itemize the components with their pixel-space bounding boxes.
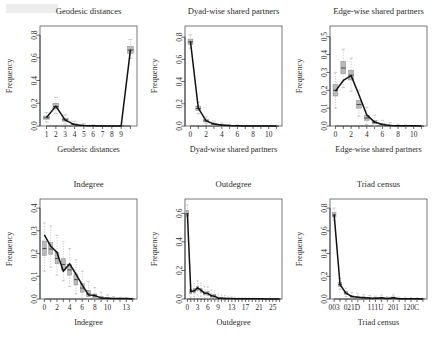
svg-text:Frequency: Frequency: [295, 231, 304, 266]
svg-text:2: 2: [204, 130, 208, 139]
svg-text:0.4: 0.4: [175, 237, 184, 247]
svg-text:6: 6: [236, 130, 240, 139]
svg-text:003: 003: [329, 303, 340, 312]
svg-text:6: 6: [381, 130, 385, 139]
svg-text:2: 2: [54, 130, 58, 139]
svg-text:0: 0: [43, 303, 47, 312]
svg-text:13: 13: [228, 303, 236, 312]
svg-text:2: 2: [55, 303, 59, 312]
svg-text:8: 8: [251, 130, 255, 139]
svg-text:120C: 120C: [403, 303, 419, 312]
svg-text:0: 0: [186, 303, 190, 312]
svg-text:0.0: 0.0: [30, 294, 39, 304]
svg-text:201: 201: [388, 303, 399, 312]
gof-panel-grid: Geodesic distances0.00.20.40.60.8Frequen…: [0, 0, 435, 346]
svg-text:0.6: 0.6: [320, 226, 329, 236]
svg-text:Geodesic distances: Geodesic distances: [57, 145, 120, 154]
svg-text:0.4: 0.4: [30, 203, 39, 213]
svg-text:6: 6: [80, 303, 84, 312]
svg-text:4: 4: [68, 303, 72, 312]
svg-text:0.6: 0.6: [30, 53, 39, 63]
svg-text:0.3: 0.3: [30, 226, 39, 236]
svg-text:0.2: 0.2: [320, 85, 329, 95]
svg-text:0.6: 0.6: [175, 54, 184, 64]
svg-text:0.2: 0.2: [175, 99, 184, 109]
svg-text:10: 10: [104, 303, 112, 312]
svg-text:3: 3: [63, 130, 67, 139]
svg-text:8: 8: [110, 130, 114, 139]
svg-text:9: 9: [119, 130, 123, 139]
svg-text:Indegree: Indegree: [74, 318, 103, 327]
svg-text:5: 5: [82, 130, 86, 139]
svg-text:8: 8: [396, 130, 400, 139]
svg-text:6: 6: [206, 303, 210, 312]
svg-text:0.8: 0.8: [30, 30, 39, 40]
panel-triad-census: Triad census0.00.20.40.60.8Frequency0030…: [290, 173, 435, 346]
svg-text:17: 17: [242, 303, 250, 312]
svg-text:Frequency: Frequency: [5, 231, 14, 266]
svg-text:7: 7: [101, 130, 105, 139]
svg-text:111U: 111U: [368, 303, 385, 312]
panel-indegree: Indegree0.00.10.20.30.4Frequency02468101…: [0, 173, 145, 346]
svg-text:0.5: 0.5: [320, 32, 329, 42]
svg-text:Frequency: Frequency: [5, 58, 14, 93]
svg-text:0.8: 0.8: [320, 203, 329, 213]
svg-text:0.2: 0.2: [175, 266, 184, 276]
svg-text:10: 10: [265, 130, 273, 139]
svg-text:0.6: 0.6: [175, 208, 184, 218]
svg-text:Triad census: Triad census: [358, 318, 399, 327]
svg-text:0.0: 0.0: [175, 121, 184, 131]
svg-text:21: 21: [255, 303, 263, 312]
svg-text:4: 4: [220, 130, 224, 139]
svg-text:Frequency: Frequency: [150, 58, 159, 93]
svg-text:0.0: 0.0: [30, 121, 39, 131]
svg-text:0.4: 0.4: [30, 76, 39, 86]
svg-text:9: 9: [216, 303, 220, 312]
svg-text:Indegree: Indegree: [73, 179, 103, 189]
panel-outdegree: Outdegree0.00.20.40.6Frequency0369131721…: [145, 173, 290, 346]
svg-text:Outdegree: Outdegree: [216, 179, 252, 189]
svg-text:0.2: 0.2: [30, 98, 39, 108]
svg-text:10: 10: [410, 130, 418, 139]
svg-text:4: 4: [365, 130, 369, 139]
svg-text:0.2: 0.2: [320, 271, 329, 281]
svg-text:Triad census: Triad census: [357, 179, 401, 189]
svg-text:Geodesic distances: Geodesic distances: [56, 6, 122, 16]
panel-dyad-wise-shared-partners: Dyad-wise shared partners0.00.20.40.60.8…: [145, 0, 290, 173]
svg-text:0.1: 0.1: [320, 103, 329, 113]
svg-text:0.2: 0.2: [30, 249, 39, 259]
panel-geodesic-distances: Geodesic distances0.00.20.40.60.8Frequen…: [0, 0, 145, 173]
svg-text:0.8: 0.8: [175, 32, 184, 42]
svg-text:8: 8: [93, 303, 97, 312]
svg-text:0.0: 0.0: [320, 121, 329, 131]
svg-text:25: 25: [269, 303, 277, 312]
svg-text:Dyad-wise shared partners: Dyad-wise shared partners: [190, 145, 277, 154]
svg-text:0.3: 0.3: [320, 68, 329, 78]
svg-text:Edge-wise shared partners: Edge-wise shared partners: [335, 145, 421, 154]
svg-text:0.4: 0.4: [175, 77, 184, 87]
svg-text:0.0: 0.0: [320, 294, 329, 304]
svg-text:0: 0: [334, 130, 338, 139]
svg-text:Outdegree: Outdegree: [216, 318, 250, 327]
svg-text:0: 0: [189, 130, 193, 139]
svg-text:0.4: 0.4: [320, 50, 329, 60]
svg-text:3: 3: [196, 303, 200, 312]
svg-text:0.1: 0.1: [30, 271, 39, 281]
svg-text:13: 13: [123, 303, 131, 312]
svg-text:0.0: 0.0: [175, 294, 184, 304]
svg-text:6: 6: [91, 130, 95, 139]
svg-text:021D: 021D: [344, 303, 361, 312]
svg-text:4: 4: [73, 130, 77, 139]
svg-text:1: 1: [45, 130, 49, 139]
svg-text:0.4: 0.4: [320, 249, 329, 259]
panel-edge-wise-shared-partners: Edge-wise shared partners0.00.10.20.30.4…: [290, 0, 435, 173]
svg-text:Frequency: Frequency: [150, 231, 159, 266]
svg-text:2: 2: [349, 130, 353, 139]
svg-text:Frequency: Frequency: [295, 58, 304, 93]
svg-text:Dyad-wise shared partners: Dyad-wise shared partners: [188, 6, 280, 16]
svg-text:Edge-wise shared partners: Edge-wise shared partners: [333, 6, 424, 16]
